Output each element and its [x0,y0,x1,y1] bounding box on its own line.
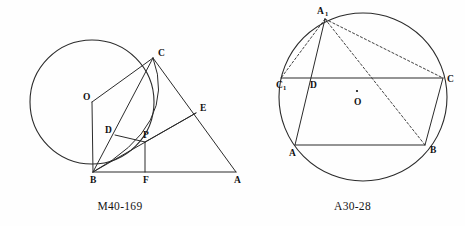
label-point-c: C [158,48,165,58]
label-point-d-right: D [310,80,317,90]
figure-caption-left: M40-169 [0,200,240,212]
label-point-b: B [90,175,97,185]
label-point-b-right: B [430,145,437,155]
label-point-o-right: O [354,97,361,107]
segment-o-b [92,102,93,172]
segment-o-c [92,58,153,102]
figure-right-canvas: A 1 C 1 D C A B O [240,0,465,195]
segment-a1-b-dashed [325,19,425,145]
segment-d-p [115,135,145,142]
segment-a1-c-dashed [325,19,443,78]
label-point-d: D [105,125,112,135]
figure-left-canvas: O C B A D P E F [0,0,240,195]
label-point-e: E [200,103,206,113]
figure-m40-169: O C B A D P E F M40-169 [0,0,240,226]
figure-a30-28: A 1 C 1 D C A B O A30-28 [240,0,465,226]
label-point-o: O [83,92,90,102]
label-point-c-right: C [447,74,454,84]
label-point-c1: C [276,80,283,90]
label-point-f: F [143,175,149,185]
arc-c-p-b [93,58,159,172]
circle-center-o-right [279,13,447,181]
label-point-a-right: A [289,148,296,158]
figure-caption-right: A30-28 [240,200,465,212]
label-point-c1-subscript: 1 [283,84,286,91]
diagram-page: O C B A D P E F M40-169 [0,0,465,226]
segment-c-a [153,58,236,172]
label-point-a1-subscript: 1 [325,10,328,17]
center-dot-o [356,90,358,92]
segment-b-c [425,78,443,145]
label-point-a1: A [317,6,324,16]
label-point-p: P [143,130,149,140]
